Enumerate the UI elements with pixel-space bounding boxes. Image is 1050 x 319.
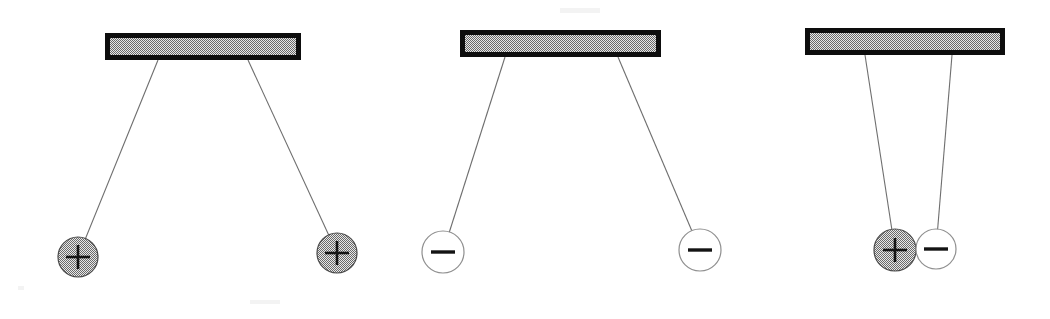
diagram-canvas (0, 0, 1050, 319)
string-1-1 (618, 57, 700, 250)
panel-like-positive (58, 36, 357, 278)
electrostatics-diagram (0, 0, 1050, 319)
support-bar (108, 36, 299, 58)
string-2-0 (865, 55, 895, 250)
panels-layer (58, 31, 1003, 278)
panel-opposite (808, 31, 1003, 272)
string-2-1 (936, 55, 952, 249)
support-bar (808, 31, 1003, 53)
support-bar (463, 33, 659, 55)
string-0-0 (78, 60, 158, 257)
string-0-1 (248, 60, 337, 253)
panel-like-negative (422, 33, 721, 274)
string-1-0 (443, 57, 505, 252)
